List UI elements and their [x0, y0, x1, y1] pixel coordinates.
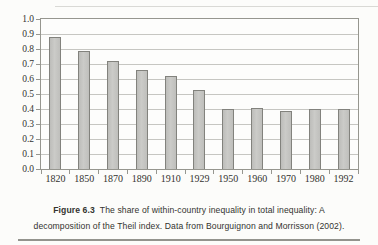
x-axis-label: 1960 — [247, 173, 267, 184]
y-axis-label: 0.7 — [22, 59, 34, 69]
y-axis-tick — [36, 169, 40, 170]
scan-artifact-line — [55, 6, 378, 7]
caption-divider-rule — [18, 239, 360, 241]
bar-cell — [127, 19, 156, 169]
caption-line-2: decomposition of the Theil index. Data f… — [0, 219, 378, 235]
caption-title-text: The share of within-country inequality i… — [100, 205, 325, 215]
plot-area: 1.00.90.80.70.60.50.40.30.20.10.01820185… — [40, 18, 359, 170]
x-axis-label: 1870 — [103, 173, 123, 184]
bar-cell — [329, 19, 358, 169]
bar-cell — [272, 19, 301, 169]
bar-1929 — [193, 90, 205, 170]
bar-1980 — [309, 109, 321, 169]
bar-1970 — [280, 111, 292, 170]
bar-cell — [214, 19, 243, 169]
book-figure: 1.00.90.80.70.60.50.40.30.20.10.01820185… — [0, 0, 378, 245]
y-axis-tick — [36, 79, 40, 80]
bar-cell — [300, 19, 329, 169]
x-axis-tick — [156, 170, 157, 174]
x-axis-tick — [300, 170, 301, 174]
y-axis-tick — [36, 139, 40, 140]
caption-line-1: Figure 6.3The share of within-country in… — [0, 203, 378, 219]
x-axis-tick — [127, 170, 128, 174]
bar-1950 — [222, 109, 234, 169]
x-axis-label: 1910 — [161, 173, 181, 184]
y-axis-label: 0.2 — [22, 134, 34, 144]
y-axis-label: 0.0 — [22, 164, 34, 174]
y-axis-label: 0.1 — [22, 149, 34, 159]
y-axis-label: 0.6 — [22, 74, 34, 84]
bar-1820 — [49, 37, 61, 169]
y-axis-label: 1.0 — [22, 14, 34, 24]
x-axis-tick — [358, 170, 359, 174]
x-axis-label: 1970 — [276, 173, 296, 184]
x-axis-tick — [69, 170, 70, 174]
x-axis-tick — [98, 170, 99, 174]
y-axis-tick — [36, 109, 40, 110]
bar-1890 — [136, 70, 148, 169]
y-axis-tick — [36, 19, 40, 20]
bar-cell — [156, 19, 185, 169]
x-axis-tick — [185, 170, 186, 174]
bar-1870 — [107, 61, 119, 169]
x-axis-tick — [242, 170, 243, 174]
x-axis-label: 1929 — [190, 173, 210, 184]
y-axis-tick — [36, 154, 40, 155]
y-axis-label: 0.9 — [22, 29, 34, 39]
y-axis-tick — [36, 34, 40, 35]
x-axis-label: 1950 — [218, 173, 238, 184]
bar-cell — [41, 19, 70, 169]
x-axis-label: 1980 — [305, 173, 325, 184]
x-axis-tick — [213, 170, 214, 174]
y-axis-label: 0.4 — [22, 104, 34, 114]
x-axis-label: 1992 — [334, 173, 354, 184]
x-axis-label: 1850 — [74, 173, 94, 184]
x-axis-tick — [41, 170, 42, 174]
x-axis-tick — [271, 170, 272, 174]
figure-caption: Figure 6.3The share of within-country in… — [0, 203, 378, 234]
y-axis-tick — [36, 124, 40, 125]
y-axis-label: 0.3 — [22, 119, 34, 129]
bar-1960 — [251, 108, 263, 170]
x-axis-label: 1890 — [132, 173, 152, 184]
bar-cell — [99, 19, 128, 169]
bar-1910 — [165, 76, 177, 169]
bar-cell — [185, 19, 214, 169]
bar-1850 — [78, 51, 90, 170]
y-axis-tick — [36, 49, 40, 50]
x-axis-tick — [329, 170, 330, 174]
figure-number: Figure 6.3 — [53, 205, 95, 215]
x-axis-label: 1820 — [45, 173, 65, 184]
y-axis-tick — [36, 64, 40, 65]
bar-cell — [70, 19, 99, 169]
y-axis-label: 0.8 — [22, 44, 34, 54]
y-axis-tick — [36, 94, 40, 95]
y-axis-label: 0.5 — [22, 89, 34, 99]
bar-1992 — [338, 109, 350, 169]
bar-cell — [243, 19, 272, 169]
